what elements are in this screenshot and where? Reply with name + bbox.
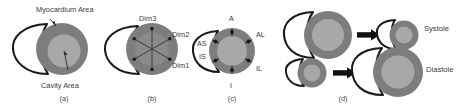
dim1-label: Dim1 <box>172 61 189 70</box>
panel-b: Dim3 Dim2 Dim1 (b) <box>105 14 189 103</box>
dim3-label: Dim3 <box>139 14 156 23</box>
segment-label-anteroseptal: AS <box>197 39 207 48</box>
cavity-area-label: Cavity Area <box>41 81 80 90</box>
figure-canvas: Myocardium Area Cavity Area (a) <box>0 0 469 107</box>
diastole-label: Diastole <box>426 65 453 74</box>
cavity-area-diastole-before <box>304 65 321 82</box>
panel-caption-c: (c) <box>228 94 237 103</box>
cavity-area-diastole-after <box>382 56 415 89</box>
segment-label-anterolateral: AL <box>256 30 265 39</box>
panel-caption-a: (a) <box>59 94 68 103</box>
segment-label-anterior: A <box>229 14 234 23</box>
cavity-area-systole-after <box>396 27 413 44</box>
panel-c: A AL IL I IS AS (c) <box>193 14 265 103</box>
systole-label: Systole <box>424 24 449 33</box>
cavity-area-systole-before <box>312 19 344 51</box>
segment-label-inferior: I <box>230 81 232 90</box>
panel-d: Systole Diastole (d) <box>284 11 454 103</box>
myocardium-area-label: Myocardium Area <box>36 5 94 14</box>
cavity-area-c <box>217 36 247 66</box>
panel-caption-b: (b) <box>147 94 156 103</box>
panel-a: Myocardium Area Cavity Area (a) <box>13 5 94 103</box>
segment-label-inferoseptal: IS <box>199 52 206 61</box>
cardiac-short-axis-figure: Myocardium Area Cavity Area (a) <box>0 0 469 107</box>
segment-label-inferolateral: IL <box>256 64 262 73</box>
dim2-label: Dim2 <box>172 30 189 39</box>
panel-caption-d: (d) <box>338 94 347 103</box>
